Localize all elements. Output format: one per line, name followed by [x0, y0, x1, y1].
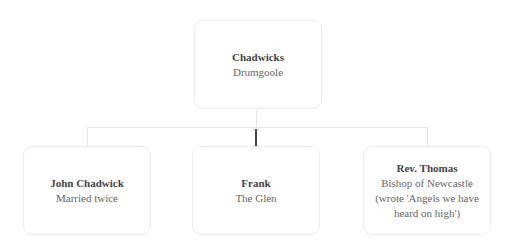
connector-child-1 [87, 127, 88, 146]
org-node-john-chadwick[interactable]: John Chadwick Married twice [23, 146, 151, 235]
node-name: Frank [241, 176, 270, 191]
org-node-root[interactable]: Chadwicks Drumgoole [194, 20, 322, 109]
connector-horizontal [87, 127, 428, 128]
node-description: The Glen [235, 191, 276, 206]
node-name: John Chadwick [50, 176, 124, 191]
node-name: Chadwicks [232, 50, 284, 65]
node-description: Drumgoole [233, 65, 283, 80]
node-description: Married twice [56, 191, 118, 206]
connector-root-down [256, 109, 257, 127]
node-name: Rev. Thomas [397, 161, 458, 176]
connector-child-3 [427, 127, 428, 146]
connector-child-2 [255, 129, 257, 146]
node-note: heard on high') [394, 206, 460, 221]
org-node-frank[interactable]: Frank The Glen [192, 146, 320, 235]
node-note: (wrote 'Angels we have [375, 191, 479, 206]
org-node-rev-thomas[interactable]: Rev. Thomas Bishop of Newcastle (wrote '… [363, 146, 491, 235]
node-description: Bishop of Newcastle [381, 176, 473, 191]
